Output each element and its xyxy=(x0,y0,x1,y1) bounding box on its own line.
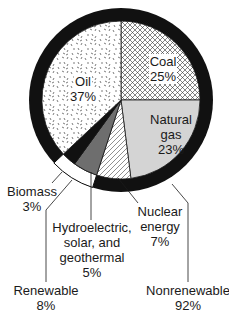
label-natural-gas: Natural gas 23% xyxy=(136,112,206,157)
label-biomass: Biomass 3% xyxy=(2,184,62,214)
label-hydro-solar-geothermal: Hydroelectric, solar, and geothermal 5% xyxy=(52,220,132,280)
label-nonrenewable: Nonrenewable 92% xyxy=(143,283,229,312)
label-oil: Oil 37% xyxy=(58,74,108,104)
leader-nonrenewable xyxy=(172,184,188,203)
label-renewable: Renewable 8% xyxy=(10,283,82,312)
label-coal: Coal 25% xyxy=(138,54,188,84)
label-nuclear: Nuclear energy 7% xyxy=(128,204,192,249)
leader-biomass xyxy=(52,172,62,183)
